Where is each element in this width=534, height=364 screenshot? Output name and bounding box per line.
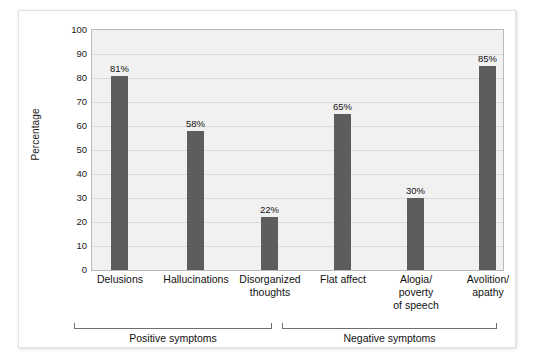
y-tick-80: 80 <box>55 72 87 83</box>
y-tick-40: 40 <box>55 168 87 179</box>
category-label-disorganized-thoughts-line2: thoughts <box>222 286 318 299</box>
category-label-avolition-apathy: Avolition/ apathy <box>440 273 534 299</box>
group-positive-symptoms: Positive symptoms <box>74 323 272 349</box>
bar-flat-affect[interactable]: 65% <box>334 114 351 270</box>
group-negative-symptoms: Negative symptoms <box>282 323 497 349</box>
y-tick-20: 20 <box>55 216 87 227</box>
gridline-30 <box>92 198 503 199</box>
bar-avolition-apathy[interactable]: 85% <box>479 66 496 270</box>
bar-value-avolition-apathy: 85% <box>478 53 497 64</box>
bar-delusions[interactable]: 81% <box>111 76 128 270</box>
gridline-60 <box>92 126 503 127</box>
bar-alogia-poverty-of-speech[interactable]: 30% <box>407 198 424 270</box>
gridline-40 <box>92 174 503 175</box>
gridline-20 <box>92 222 503 223</box>
bar-value-disorganized-thoughts: 22% <box>260 204 279 215</box>
group-label-negative-symptoms: Negative symptoms <box>282 332 497 344</box>
y-tick-100: 100 <box>55 24 87 35</box>
bar-hallucinations[interactable]: 58% <box>187 131 204 270</box>
category-label-alogia-line3: of speech <box>368 299 464 312</box>
group-bracket-positive <box>74 323 272 329</box>
y-axis-title: Percentage <box>30 75 41 195</box>
bar-value-delusions: 81% <box>110 63 129 74</box>
y-tick-60: 60 <box>55 120 87 131</box>
gridline-70 <box>92 102 503 103</box>
gridline-50 <box>92 150 503 151</box>
group-bracket-negative <box>282 323 497 329</box>
chart-card: Percentage 100 90 80 70 60 50 40 30 20 1… <box>18 10 516 348</box>
bar-value-alogia-poverty-of-speech: 30% <box>406 185 425 196</box>
y-tick-10: 10 <box>55 240 87 251</box>
plot-area: 81% 58% 22% 65% 30% 85% <box>91 29 504 271</box>
category-label-avolition-line1: Avolition/ <box>440 273 534 286</box>
gridline-80 <box>92 78 503 79</box>
gridline-90 <box>92 54 503 55</box>
bar-disorganized-thoughts[interactable]: 22% <box>261 217 278 270</box>
group-label-positive-symptoms: Positive symptoms <box>74 332 272 344</box>
category-label-avolition-line2: apathy <box>440 286 534 299</box>
x-axis-category-labels: Delusions Hallucinations Disorganized th… <box>92 273 503 321</box>
bar-value-flat-affect: 65% <box>333 101 352 112</box>
y-tick-90: 90 <box>55 48 87 59</box>
bar-value-hallucinations: 58% <box>186 118 205 129</box>
y-axis-tick-labels: 100 90 80 70 60 50 40 30 20 10 0 <box>55 29 87 269</box>
y-tick-50: 50 <box>55 144 87 155</box>
gridline-10 <box>92 246 503 247</box>
y-tick-30: 30 <box>55 192 87 203</box>
y-tick-70: 70 <box>55 96 87 107</box>
